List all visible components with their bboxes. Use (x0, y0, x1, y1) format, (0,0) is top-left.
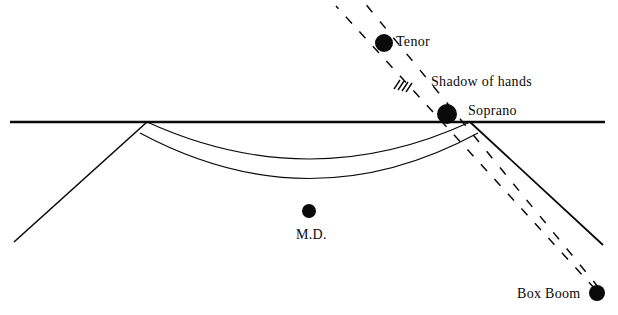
md-marker-dot (302, 204, 316, 218)
diagram-canvas: Tenor Shadow of hands Soprano M.D. Box B… (0, 0, 618, 315)
label-tenor: Tenor (396, 35, 430, 49)
box-boom-marker-dot (589, 285, 605, 301)
box-boom-ray-upper (336, 6, 595, 289)
stage-sightline-diagram (0, 0, 618, 315)
shadow-of-hands-hatching (394, 80, 412, 92)
label-soprano: Soprano (468, 104, 517, 118)
tenor-marker-dot (375, 34, 393, 52)
soprano-marker-dot (437, 104, 457, 124)
right-wing-line (470, 122, 603, 245)
orchestra-pit-upper-curve (147, 122, 470, 159)
label-shadow-of-hands: Shadow of hands (431, 75, 532, 89)
label-md: M.D. (296, 228, 327, 242)
left-wing-line (14, 122, 147, 242)
label-box-boom: Box Boom (517, 287, 580, 301)
